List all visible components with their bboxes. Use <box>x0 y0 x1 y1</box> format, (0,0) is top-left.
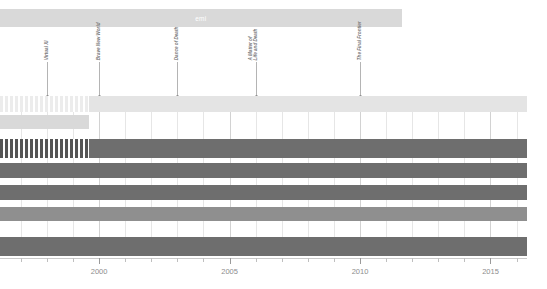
annotation-label-line: Dance of Death <box>174 27 179 60</box>
annotation-label: A Matter ofLife and Death <box>247 28 257 60</box>
axis-tick-minor <box>334 258 335 262</box>
tick-label-layer: 2000200520102015 <box>0 267 527 279</box>
album-annotation[interactable]: Virtual XI <box>47 0 48 97</box>
group-label-bar: emi <box>0 9 402 27</box>
axis-tick-label: 2010 <box>352 267 369 276</box>
annotation-label-line: The Final Frontier <box>357 21 362 60</box>
axis-tick-minor <box>464 258 465 262</box>
group-label-text: emi <box>0 9 402 27</box>
bar-segment <box>89 96 527 112</box>
axis-tick-minor <box>256 258 257 262</box>
bar-segment <box>89 139 527 158</box>
axis-tick-minor <box>282 258 283 262</box>
axis-tick-major <box>230 258 231 264</box>
axis-tick-major <box>490 258 491 264</box>
annotation-leader-line <box>177 62 178 97</box>
bar-segment-striped <box>0 139 89 158</box>
album-annotation[interactable]: Dance of Death <box>177 0 178 97</box>
timeline-chart: emi Virtual XIBrave New WorldDance of De… <box>0 0 547 289</box>
album-annotation[interactable]: A Matter ofLife and Death <box>256 0 257 97</box>
axis-tick-minor <box>47 258 48 262</box>
annotation-label-line: Brave New World <box>96 22 101 60</box>
bar-segment-striped <box>0 96 89 112</box>
annotation-label: The Final Frontier <box>357 21 362 60</box>
axis-tick-minor <box>21 258 22 262</box>
axis-tick-minor <box>308 258 309 262</box>
axis-tick-minor <box>517 258 518 262</box>
album-annotation[interactable]: Brave New World <box>99 0 100 97</box>
bar-segment <box>0 207 527 221</box>
axis-tick-label: 2015 <box>482 267 499 276</box>
annotation-label-line: Life and Death <box>252 28 257 60</box>
axis-tick-minor <box>151 258 152 262</box>
bar-segment <box>0 163 527 178</box>
axis-tick-minor <box>438 258 439 262</box>
axis-tick-minor <box>125 258 126 262</box>
bar-segment <box>0 115 89 129</box>
axis-tick-major <box>360 258 361 264</box>
plot-area <box>0 96 527 256</box>
axis-tick-label: 2000 <box>91 267 108 276</box>
axis-tick-minor <box>386 258 387 262</box>
bar-segment <box>0 185 527 200</box>
axis-tick-major <box>99 258 100 264</box>
annotation-label-line: Virtual XI <box>44 40 49 60</box>
annotation-label-line: A Matter of <box>247 28 252 60</box>
axis-tick-minor <box>73 258 74 262</box>
annotation-leader-line <box>47 62 48 97</box>
axis-tick-minor <box>203 258 204 262</box>
axis-tick-minor <box>177 258 178 262</box>
bar-layer <box>0 96 527 256</box>
axis-tick-label: 2005 <box>221 267 238 276</box>
annotation-label: Virtual XI <box>44 40 49 60</box>
annotation-leader-line <box>360 62 361 97</box>
axis-tick-minor <box>412 258 413 262</box>
annotation-label: Dance of Death <box>174 27 179 60</box>
album-annotation[interactable]: The Final Frontier <box>360 0 361 97</box>
annotation-label: Brave New World <box>96 22 101 60</box>
tick-layer <box>0 258 527 266</box>
annotation-leader-line <box>99 62 100 97</box>
annotation-leader-line <box>256 62 257 97</box>
bar-segment <box>0 237 527 256</box>
